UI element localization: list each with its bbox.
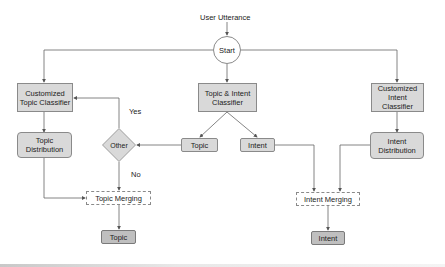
topic-output-label: Topic	[110, 233, 128, 242]
intent-output-node: Intent	[311, 231, 345, 245]
topic-merging-label: Topic Merging	[95, 194, 142, 203]
other-decision-label: Other	[102, 128, 136, 162]
intent-output-label: Intent	[319, 234, 338, 243]
topic-merging-node: Topic Merging	[86, 191, 151, 205]
yes-edge-label: Yes	[129, 107, 141, 116]
start-label: Start	[219, 46, 235, 55]
other-decision-node: Other	[102, 128, 136, 162]
intent-merging-node: Intent Merging	[296, 192, 360, 206]
topic-distribution-node: Topic Distribution	[17, 132, 72, 158]
intent-distribution-label: Intent Distribution	[371, 137, 423, 155]
no-edge-label: No	[131, 170, 141, 179]
topic-branch-label: Topic	[191, 141, 209, 150]
topic-output-node: Topic	[101, 230, 136, 244]
customized-intent-classifier-label: Customized Intent Classifier	[372, 84, 423, 111]
start-node: Start	[213, 36, 241, 64]
customized-topic-classifier-label: Customized Topic Classifier	[18, 89, 72, 107]
topic-intent-classifier-node: Topic & Intent Classifier	[198, 83, 257, 112]
intent-branch-label: Intent	[248, 141, 267, 150]
customized-topic-classifier-node: Customized Topic Classifier	[17, 83, 73, 112]
intent-branch-node: Intent	[240, 138, 275, 152]
flowchart-canvas: User Utterance Start Customized Topic Cl…	[0, 0, 445, 267]
topic-branch-node: Topic	[181, 138, 218, 152]
intent-merging-label: Intent Merging	[304, 195, 352, 204]
topic-distribution-label: Topic Distribution	[18, 136, 71, 154]
user-utterance-label: User Utterance	[200, 13, 250, 22]
topic-intent-classifier-label: Topic & Intent Classifier	[199, 89, 256, 107]
customized-intent-classifier-node: Customized Intent Classifier	[371, 83, 424, 112]
intent-distribution-node: Intent Distribution	[370, 132, 424, 159]
